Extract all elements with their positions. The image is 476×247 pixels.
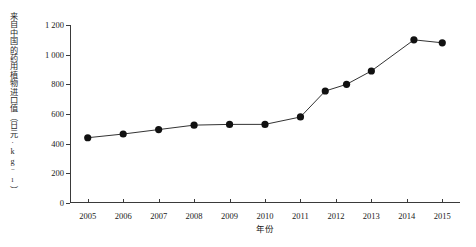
x-tick-label: 2011 [292,211,309,221]
y-tick-label: 200 [51,168,64,178]
y-tick-label: 400 [51,139,64,149]
x-axis-title: 年份 [70,222,460,234]
line-series [70,25,460,203]
data-point [84,134,91,141]
data-point [343,81,350,88]
plot-area: 02004006008001 0001 200 2005200620072008… [70,25,460,203]
x-tick-label: 2010 [257,211,274,221]
x-tick-label: 2013 [363,211,380,221]
y-tick-label: 1 000 [45,50,64,60]
y-tick-label: 1 200 [45,20,64,30]
data-point [190,122,197,129]
x-tick-label: 2006 [115,211,132,221]
y-tick-label: 800 [51,79,64,89]
x-tick-label: 2012 [327,211,344,221]
y-tick-label: 0 [60,198,64,208]
data-point [368,67,375,74]
data-point [322,87,329,94]
x-tick-label: 2007 [150,211,167,221]
x-tick-label: 2015 [434,211,451,221]
data-point [261,121,268,128]
x-tick-label: 2014 [398,211,415,221]
x-tick-label: 2005 [79,211,96,221]
data-point [297,113,304,120]
x-tick-label: 2009 [221,211,238,221]
y-tick-mark [66,203,70,204]
y-axis-title: 来自中国的药用植物进口值（日元·kg⁻¹） [2,8,22,198]
data-point [439,39,446,46]
data-point [120,130,127,137]
data-point [155,126,162,133]
data-point [410,36,417,43]
y-tick-label: 600 [51,109,64,119]
data-point [226,121,233,128]
chart-figure: 来自中国的药用植物进口值（日元·kg⁻¹） 02004006008001 000… [0,0,476,247]
x-tick-label: 2008 [186,211,203,221]
